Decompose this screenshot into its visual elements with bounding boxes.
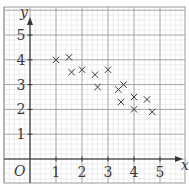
major-grid xyxy=(4,7,185,183)
y-tick-label: 3 xyxy=(17,77,26,93)
grid-frame xyxy=(4,7,185,183)
scatter-chart: 1234512345 x y O xyxy=(0,0,189,185)
x-tick-label: 3 xyxy=(104,164,113,180)
axis-ticks xyxy=(28,35,161,162)
x-tick-label: 1 xyxy=(52,164,61,180)
x-axis-label: x xyxy=(181,157,189,173)
x-tick-label: 5 xyxy=(156,164,165,180)
y-tick-label: 2 xyxy=(17,101,26,117)
y-tick-label: 4 xyxy=(17,52,26,68)
x-tick-label: 2 xyxy=(78,164,87,180)
axes xyxy=(4,17,183,183)
x-tick-label: 4 xyxy=(130,164,139,180)
y-axis-label: y xyxy=(19,4,29,20)
y-tick-label: 1 xyxy=(17,126,26,142)
y-tick-label: 5 xyxy=(17,27,26,43)
minor-grid xyxy=(4,7,185,183)
origin-label: O xyxy=(14,163,26,179)
